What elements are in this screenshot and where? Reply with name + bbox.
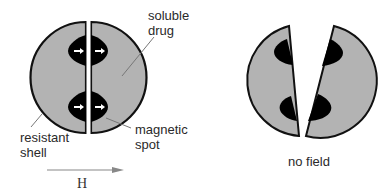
label-soluble-line2: drug xyxy=(148,23,189,38)
label-resistant-line1: resistant xyxy=(20,130,69,145)
leader-resistant-shell xyxy=(31,114,42,127)
label-resistant-line2: shell xyxy=(20,145,69,160)
label-magnetic-line1: magnetic xyxy=(135,122,188,137)
label-soluble-line1: soluble xyxy=(148,8,189,23)
open-capsule-right-half xyxy=(306,26,377,138)
label-resistant-shell: resistant shell xyxy=(20,130,69,160)
label-magnetic-spot: magnetic spot xyxy=(135,122,188,152)
field-arrowhead-icon xyxy=(112,167,124,173)
capsule-diagram xyxy=(0,0,391,194)
label-field-h: H xyxy=(77,176,87,192)
capsule-no-field xyxy=(247,26,376,138)
label-no-field: no field xyxy=(288,154,330,169)
label-magnetic-line2: spot xyxy=(135,137,188,152)
label-soluble-drug: soluble drug xyxy=(148,8,189,38)
